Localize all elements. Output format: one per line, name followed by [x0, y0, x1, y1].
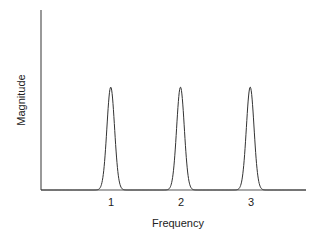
x-axis-title: Frequency [152, 217, 204, 229]
x-tick-label: 2 [178, 196, 184, 208]
y-axis-title: Magnitude [15, 74, 27, 125]
spectrum-line [41, 87, 306, 190]
chart: 1 2 3 Frequency Magnitude [0, 0, 317, 240]
x-tick-label: 3 [248, 196, 254, 208]
x-tick-label: 1 [108, 196, 114, 208]
